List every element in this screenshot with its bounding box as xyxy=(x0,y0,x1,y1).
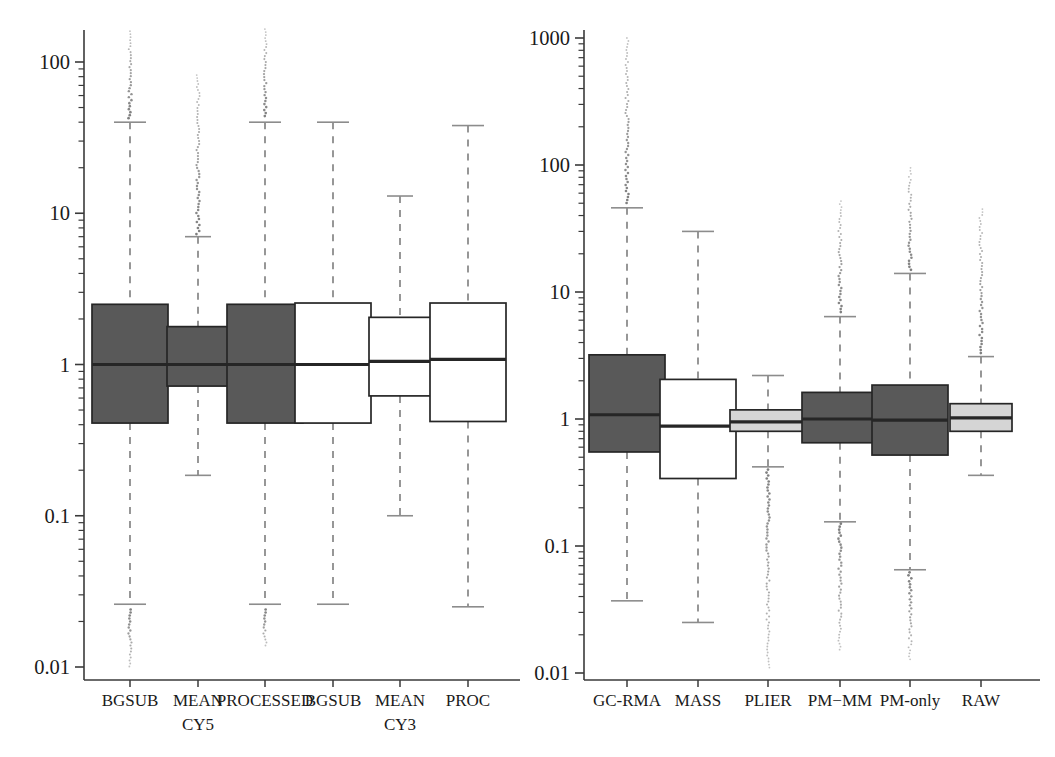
outlier-point xyxy=(197,83,199,85)
outlier-point xyxy=(625,163,627,165)
outlier-point xyxy=(196,221,199,224)
outlier-point xyxy=(768,591,770,593)
outlier-point xyxy=(910,268,913,271)
outlier-point xyxy=(981,208,983,210)
outlier-point xyxy=(838,528,841,531)
x-tick-label: PLIER xyxy=(744,691,792,710)
outlier-point xyxy=(908,580,911,583)
outlier-point xyxy=(128,666,130,668)
outlier-point xyxy=(766,528,768,530)
outlier-point xyxy=(978,334,981,337)
outlier-point xyxy=(766,588,768,590)
outlier-point xyxy=(982,211,984,213)
outliers-low xyxy=(262,608,267,646)
outlier-point xyxy=(909,604,911,606)
outlier-point xyxy=(837,537,840,540)
outlier-point xyxy=(979,283,981,285)
outlier-point xyxy=(625,49,627,51)
outlier-point xyxy=(129,644,131,646)
outlier-point xyxy=(981,307,983,309)
outlier-point xyxy=(129,608,132,611)
outlier-point xyxy=(910,622,912,624)
outlier-point xyxy=(266,43,268,45)
outlier-point xyxy=(264,37,266,39)
outlier-point xyxy=(197,125,199,127)
outlier-point xyxy=(839,242,841,244)
outlier-point xyxy=(908,188,910,190)
outlier-point xyxy=(911,640,913,642)
outlier-point xyxy=(839,522,842,525)
outlier-point xyxy=(767,552,769,554)
outlier-point xyxy=(981,262,983,264)
outlier-point xyxy=(840,305,843,308)
outlier-point xyxy=(197,215,200,218)
outlier-point xyxy=(908,221,910,223)
outlier-point xyxy=(908,185,910,187)
outlier-point xyxy=(265,97,267,99)
outlier-point xyxy=(908,248,911,251)
outlier-point xyxy=(979,346,982,349)
outlier-point xyxy=(129,660,131,662)
outliers-high xyxy=(978,208,984,354)
outlier-point xyxy=(627,127,629,129)
outlier-point xyxy=(838,573,840,575)
outlier-point xyxy=(908,571,911,574)
outlier-point xyxy=(909,170,911,172)
outlier-point xyxy=(908,191,910,193)
outlier-point xyxy=(841,206,843,208)
outlier-point xyxy=(767,628,769,630)
outlier-point xyxy=(129,629,131,631)
outlier-point xyxy=(129,33,131,35)
outlier-point xyxy=(910,197,912,199)
outlier-point xyxy=(979,352,982,355)
outlier-point xyxy=(768,631,770,633)
outlier-point xyxy=(768,661,770,663)
outlier-point xyxy=(908,610,910,612)
outlier-point xyxy=(197,152,199,154)
outlier-point xyxy=(264,629,266,631)
outlier-point xyxy=(263,88,265,90)
outlier-point xyxy=(838,531,841,534)
outlier-point xyxy=(910,254,913,257)
outliers-high xyxy=(127,30,132,119)
outlier-point xyxy=(766,655,768,657)
outlier-point xyxy=(980,223,982,225)
outlier-point xyxy=(910,577,913,580)
outlier-point xyxy=(840,564,842,566)
outlier-point xyxy=(838,540,841,543)
outlier-point xyxy=(839,534,842,537)
x-tick-label: PROCESSED xyxy=(217,691,313,710)
outlier-point xyxy=(768,616,770,618)
outlier-point xyxy=(197,197,199,199)
outlier-point xyxy=(908,265,911,268)
outlier-point xyxy=(264,55,266,57)
outlier-point xyxy=(263,617,265,619)
outlier-point xyxy=(626,160,628,162)
outlier-point xyxy=(197,146,199,148)
outlier-point xyxy=(130,84,132,86)
outlier-point xyxy=(129,663,131,665)
outlier-point xyxy=(768,579,770,581)
outlier-point xyxy=(839,203,841,205)
outlier-point xyxy=(130,81,132,83)
outlier-point xyxy=(839,576,841,578)
outliers-high xyxy=(195,74,201,235)
outlier-point xyxy=(838,598,840,600)
boxplot-item xyxy=(167,74,229,475)
outlier-point xyxy=(839,227,841,229)
outlier-point xyxy=(838,251,840,253)
outlier-point xyxy=(909,206,911,208)
outlier-point xyxy=(910,607,912,609)
outlier-point xyxy=(840,224,842,226)
outlier-point xyxy=(627,76,629,78)
outlier-point xyxy=(839,619,841,621)
outlier-point xyxy=(838,634,840,636)
outlier-point xyxy=(625,82,627,84)
boxplot-item xyxy=(295,122,371,604)
outlier-point xyxy=(627,130,629,132)
outlier-point xyxy=(766,603,768,605)
outlier-point xyxy=(767,573,769,575)
x-tick-label: PROC xyxy=(446,691,490,710)
outlier-point xyxy=(624,112,626,114)
outlier-point xyxy=(626,199,629,202)
